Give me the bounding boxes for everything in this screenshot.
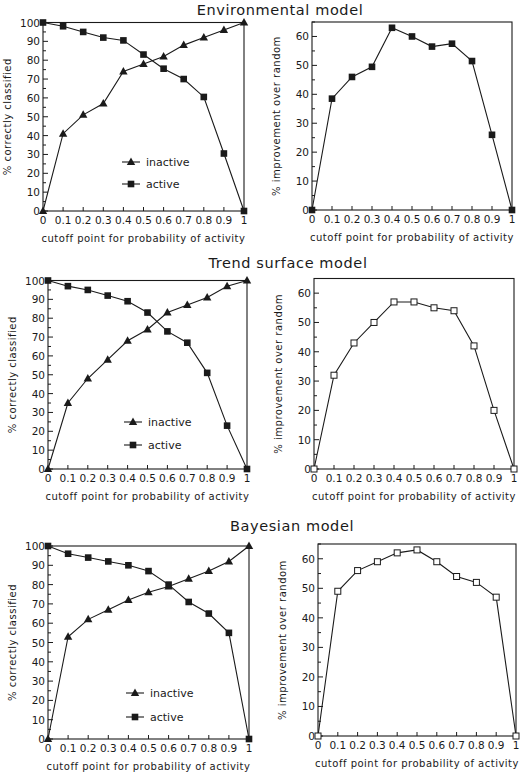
y-tick-label: 100 [25, 275, 45, 287]
x-axis-label: cutoff point for probability of activity [46, 491, 250, 502]
open-square-marker [391, 299, 397, 305]
square-marker [409, 33, 416, 40]
legend-item-inactive: inactive [126, 687, 194, 700]
y-tick-label: 50 [296, 59, 309, 71]
y-tick-label: 70 [32, 331, 45, 343]
y-tick-label: 50 [302, 582, 315, 594]
square-marker [125, 562, 132, 569]
series-line [318, 550, 516, 736]
open-square-marker [511, 466, 517, 472]
open-square-marker [434, 559, 440, 565]
x-tick-label: 0.3 [95, 214, 112, 226]
series-line [314, 302, 514, 469]
x-tick-label: 0 [45, 472, 52, 484]
x-tick-label: 0.5 [139, 472, 156, 484]
x-tick-label: 0.1 [324, 213, 341, 225]
x-tick-label: 0.7 [448, 739, 465, 751]
y-tick-label: 20 [296, 146, 309, 158]
open-square-marker [473, 579, 479, 585]
y-tick-label: 50 [32, 369, 45, 381]
x-tick-label: 0.5 [409, 739, 426, 751]
x-tick-label: 0.3 [100, 742, 117, 754]
open-square-marker [351, 340, 357, 346]
square-marker [185, 599, 192, 606]
x-tick-label: 0.7 [180, 742, 197, 754]
legend-item-active: active [126, 711, 184, 724]
x-tick-label: 0.3 [99, 472, 116, 484]
x-tick-label: 0.5 [140, 742, 157, 754]
y-tick-label: 30 [296, 117, 309, 129]
square-marker [160, 65, 167, 72]
y-tick-label: 40 [298, 346, 311, 358]
plot-frame [312, 22, 512, 210]
x-axis-label: cutoff point for probability of activity [42, 233, 246, 244]
square-marker [389, 24, 396, 31]
triangle-marker [240, 18, 248, 26]
triangle-marker [79, 110, 87, 118]
open-square-marker [315, 733, 321, 739]
square-marker [104, 292, 111, 299]
x-tick-label: 0 [315, 739, 322, 751]
y-tick-label: 20 [32, 694, 45, 706]
triangle-marker [127, 158, 135, 166]
square-marker [244, 466, 251, 473]
triangle-marker [129, 418, 137, 426]
chart-bayes-improvement: 010203040506000.10.20.30.40.50.60.70.80.… [277, 544, 519, 769]
y-tick-label: 20 [298, 404, 311, 416]
x-tick-label: 0 [40, 214, 47, 226]
y-axis-label: % improvement over random [271, 36, 282, 196]
x-tick-label: 1 [244, 472, 251, 484]
triangle-marker [243, 276, 251, 284]
x-tick-label: 0.8 [464, 213, 481, 225]
y-tick-label: 10 [27, 186, 40, 198]
y-tick-label: 60 [302, 553, 315, 565]
x-tick-label: 0.2 [80, 742, 97, 754]
triangle-marker [245, 542, 253, 550]
open-square-marker [371, 319, 377, 325]
x-tick-label: 0.9 [484, 213, 501, 225]
x-tick-label: 0.3 [369, 739, 386, 751]
y-tick-label: 100 [20, 17, 40, 29]
legend-label: active [150, 711, 184, 724]
x-tick-label: 0.6 [160, 742, 177, 754]
x-tick-label: 1 [511, 472, 518, 484]
x-tick-label: 0.2 [349, 739, 366, 751]
x-tick-label: 0.1 [60, 742, 77, 754]
square-marker [201, 94, 208, 101]
square-marker [329, 95, 336, 102]
x-tick-label: 0.6 [155, 214, 172, 226]
series-active [40, 19, 248, 214]
square-marker [180, 76, 187, 83]
section-title-bayesian: Bayesian model [230, 518, 354, 534]
y-tick-label: 60 [296, 30, 309, 42]
triangle-marker [44, 735, 52, 743]
y-tick-label: 10 [302, 700, 315, 712]
y-tick-label: 30 [32, 675, 45, 687]
chart-trend-classified: 010203040506070809010000.10.20.30.40.50.… [7, 275, 251, 503]
legend-label: active [148, 439, 182, 452]
triangle-marker [203, 293, 211, 301]
square-marker [130, 442, 137, 449]
y-axis-label: % improvement over random [277, 560, 288, 720]
square-marker [120, 37, 127, 44]
triangle-marker [104, 605, 112, 613]
square-marker [80, 29, 87, 36]
y-tick-label: 40 [302, 612, 315, 624]
x-axis-label: cutoff point for probability of activity [315, 758, 519, 769]
x-tick-label: 0 [45, 742, 52, 754]
chart-env-improvement: 010203040506000.10.20.30.40.50.60.70.80.… [271, 22, 515, 243]
y-tick-label: 30 [27, 148, 40, 160]
open-square-marker [431, 305, 437, 311]
triangle-marker [225, 557, 233, 565]
section-title-trend-surface: Trend surface model [207, 255, 367, 271]
y-tick-label: 10 [32, 714, 45, 726]
open-square-marker [493, 594, 499, 600]
square-marker [144, 309, 151, 316]
square-marker [145, 568, 152, 575]
y-tick-label: 30 [298, 375, 311, 387]
x-tick-label: 0.9 [486, 472, 503, 484]
square-marker [165, 581, 172, 588]
open-square-marker [411, 299, 417, 305]
x-tick-label: 0.8 [199, 472, 216, 484]
x-tick-label: 0.5 [406, 472, 423, 484]
